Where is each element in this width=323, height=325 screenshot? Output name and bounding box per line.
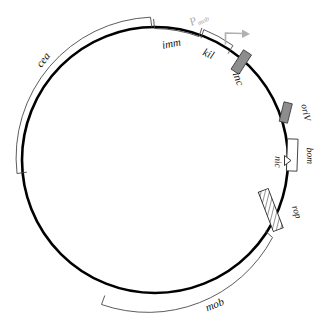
plasmid-diagram-canvas: cea imm kil Pmob inc (0, 0, 323, 325)
imm-label: imm (161, 35, 182, 50)
promoter-label-subscript: mob (196, 15, 211, 28)
feature-mob: mob (102, 231, 273, 313)
feature-kil: kil (201, 30, 233, 61)
mob-tick-end (102, 296, 105, 305)
feature-cea: cea (16, 17, 152, 173)
rop-label: rop (290, 205, 303, 220)
inc-label: inc (231, 70, 247, 87)
cea-arc (16, 17, 150, 173)
feature-bom: bom (286, 139, 315, 171)
promoter-arrow-head-icon (242, 30, 250, 39)
feature-inc: inc (231, 50, 252, 87)
feature-oriV: oriV (279, 102, 313, 123)
plasmid-map-figure: cea imm kil Pmob inc (0, 0, 323, 325)
promoter-group: Pmob (186, 9, 250, 45)
cea-tick-start (151, 17, 152, 27)
nic-label: nic (273, 156, 283, 169)
kil-label: kil (201, 46, 216, 61)
promoter-label: Pmob (186, 9, 211, 31)
oriV-box (279, 102, 292, 123)
mob-label: mob (203, 295, 226, 313)
oriV-label: oriV (299, 103, 313, 123)
feature-rop: rop (258, 189, 303, 232)
mob-arc (102, 238, 273, 313)
plasmid-backbone-circle (22, 27, 288, 293)
bom-box (286, 139, 298, 171)
bom-label: bom (305, 148, 315, 165)
